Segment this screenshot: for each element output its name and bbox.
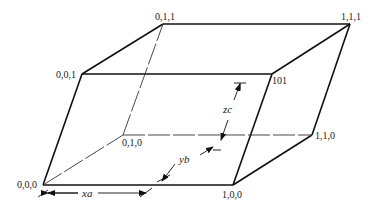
- edge-000-001: [43, 74, 82, 185]
- edge-000-010: [43, 135, 123, 185]
- unit-cell-diagram: xa yb zc 0,0,0 1,0,0 0,1,0 1,1,0 0,0,1 1…: [0, 0, 379, 208]
- vertex-label-100: 1,0,0: [222, 189, 242, 200]
- label-xa: xa: [81, 187, 93, 199]
- vertex-label-110: 1,1,0: [315, 130, 335, 141]
- edge-110-111: [312, 24, 350, 135]
- edge-001-011: [82, 24, 163, 74]
- edge-010-011: [123, 24, 163, 135]
- vertex-label-011: 0,1,1: [155, 11, 175, 22]
- edge-101-111: [272, 24, 350, 74]
- visible-edges: [43, 24, 350, 185]
- vertex-label-001: 0,0,1: [56, 69, 76, 80]
- edge-100-101: [233, 74, 272, 185]
- label-zc: zc: [222, 103, 232, 115]
- vertex-label-010: 0,1,0: [122, 137, 142, 148]
- label-yb: yb: [178, 153, 190, 165]
- vertex-label-101: 101: [272, 75, 287, 86]
- vertex-label-000: 0,0,0: [17, 179, 37, 190]
- edge-100-110: [233, 135, 312, 185]
- vertex-label-111: 1,1,1: [341, 11, 361, 22]
- dimension-xa: [38, 188, 152, 197]
